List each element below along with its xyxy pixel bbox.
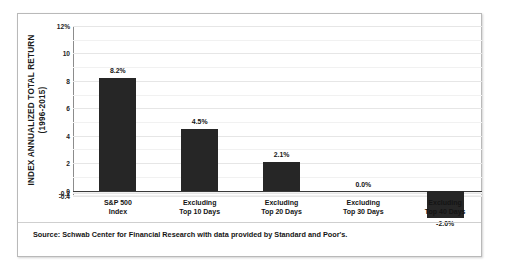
- plot-area: 8.2%4.5%2.1%0.0%-2.0%: [73, 26, 482, 196]
- y-axis-tick-label: 10: [30, 50, 70, 57]
- bar: [99, 78, 136, 190]
- footnote-divider: [18, 222, 481, 223]
- y-axis-tick-label: -0.4: [30, 193, 70, 200]
- gridline-minor: [73, 40, 482, 41]
- gridline: [73, 53, 482, 54]
- chart-figure: INDEX ANNUALIZED TOTAL RETURN (1996-2015…: [0, 0, 506, 274]
- zero-baseline: [73, 191, 482, 192]
- x-axis-label-line: S&P 500: [104, 198, 132, 207]
- gridline: [73, 196, 482, 197]
- x-axis-category-label: ExcludingTop 10 Days: [179, 198, 220, 216]
- x-axis-label-line: Excluding: [179, 198, 220, 207]
- x-axis-label-line: Excluding: [261, 198, 302, 207]
- y-axis-tick-label: 12%: [30, 23, 70, 30]
- x-axis-category-label: ExcludingTop 20 Days: [261, 198, 302, 216]
- gridline: [73, 193, 482, 194]
- y-axis-tick-label: 8: [30, 77, 70, 84]
- y-axis-tick-label: 4: [30, 132, 70, 139]
- bar-value-label: 4.5%: [192, 118, 208, 125]
- x-axis-category-label: S&P 500Index: [104, 198, 132, 216]
- bar-value-label: 2.1%: [274, 151, 290, 158]
- x-axis-label-line: Excluding: [425, 198, 466, 207]
- x-axis-category-labels: S&P 500IndexExcludingTop 10 DaysExcludin…: [73, 198, 482, 224]
- gridline-minor: [73, 67, 482, 68]
- gridline: [73, 26, 482, 27]
- bar: [263, 162, 300, 191]
- bar-value-label: 0.0%: [355, 181, 371, 188]
- x-axis-category-label: ExcludingTop 40 Days: [425, 198, 466, 216]
- y-axis-tick-labels: 12%1086420-0.2-0.4: [28, 26, 70, 196]
- x-axis-label-line: Index: [104, 207, 132, 216]
- bar-value-label: 8.2%: [110, 67, 126, 74]
- y-axis-tick-label: 6: [30, 105, 70, 112]
- x-axis-label-line: Top 40 Days: [425, 207, 466, 216]
- y-axis-tick-label: 2: [30, 160, 70, 167]
- y-axis-line: [73, 26, 74, 196]
- x-axis-label-line: Top 10 Days: [179, 207, 220, 216]
- x-axis-label-line: Top 20 Days: [261, 207, 302, 216]
- x-axis-category-label: ExcludingTop 30 Days: [343, 198, 384, 216]
- x-axis-label-line: Top 30 Days: [343, 207, 384, 216]
- source-note: Source: Schwab Center for Financial Rese…: [33, 230, 347, 239]
- x-axis-label-line: Excluding: [343, 198, 384, 207]
- bar: [181, 129, 218, 191]
